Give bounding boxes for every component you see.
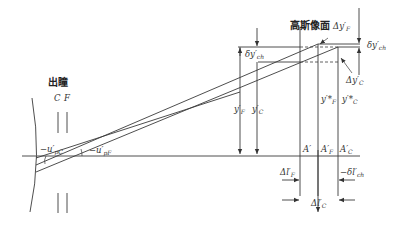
label-yf-star: y′*F [320, 94, 337, 105]
label-A-c: A′C [339, 144, 353, 155]
label-dyf: Δy′F [332, 21, 351, 32]
label-yf: y′F [233, 104, 246, 115]
angle-label-upc: −u′pC [40, 144, 63, 156]
label-A-prime: A′ [302, 144, 311, 154]
gauss-plane-label: 高斯像面 [290, 19, 330, 31]
label-yc-star: y′*C [341, 94, 358, 105]
label-dych: δy′ch [245, 49, 264, 60]
label-dlc: Δl′C [310, 198, 327, 209]
pupil-c-label: C [54, 93, 61, 103]
angle-arc-pf [81, 149, 82, 156]
leader-dyf [320, 38, 328, 44]
label-dlch: −δl′ch [340, 167, 364, 178]
label-yc: y′C [251, 104, 264, 115]
exit-pupil-curve [30, 98, 37, 212]
label-dyc: Δy′C [345, 75, 364, 86]
leader-dyc [341, 58, 352, 73]
chromatic-aberration-diagram: 出瞳 C F −u′pC −u′pF 高斯像面 Δy′F δy′ch δy′ch… [0, 0, 405, 226]
exit-pupil-label: 出瞳 [48, 76, 68, 88]
label-dlf: Δl′F [279, 167, 296, 178]
angle-label-upf: −u′pF [89, 145, 112, 157]
pupil-f-label: F [63, 93, 71, 103]
label-A-f: A′F [320, 144, 334, 155]
angle-arc-pc [45, 156, 46, 164]
label-dych-star: δy′ch [367, 40, 386, 51]
